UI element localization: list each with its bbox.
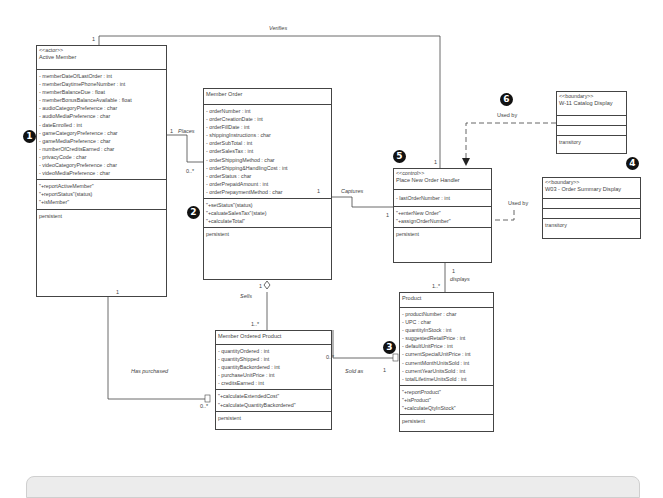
arrowhead-catalog [462, 158, 470, 166]
attribute-row: - orderPrepaidAmount : int [206, 180, 329, 188]
attribute-row: - orderPrepaymentMethod : char [206, 188, 329, 196]
method-row: "+reportStatus"(status) [39, 190, 164, 198]
attribute-row: - videoMediaPreference : char [39, 169, 164, 177]
method-row: "+calculateQuantityBackordered" [218, 401, 329, 409]
class-place-new-order-handler[interactable]: <<control>> Place New Order Handler - la… [393, 168, 492, 263]
callout-badge-5: 5 [393, 150, 406, 163]
multiplicity: 1..* [251, 321, 259, 327]
attribute-row: - productNumber : char [402, 310, 491, 318]
attribute-row: - quantityBackordered : int [218, 363, 329, 371]
multiplicity: 1 [170, 128, 173, 134]
attribute-row: - shippingInstructions : char [206, 131, 329, 139]
multiplicity: 1 [116, 289, 119, 295]
multiplicity: 0..* [186, 168, 194, 174]
attribute-row: - memberBalanceDue : float [39, 88, 164, 96]
attribute-row: - memberDaytimePhoneNumber : int [39, 80, 164, 88]
attribute-row: - orderCreationDate : int [206, 115, 329, 123]
multiplicity: 1 [386, 212, 389, 218]
callout-badge-4: 4 [626, 157, 639, 170]
attribute-row: - audioCategoryPreference : char [39, 104, 164, 112]
multiplicity: 1 [317, 188, 320, 194]
attribute-row: - UPC : char [402, 318, 491, 326]
attribute-row: - gameCategoryPreference : char [39, 129, 164, 137]
callout-badge-3: 3 [383, 341, 396, 354]
persistence-label: persistent [396, 230, 489, 238]
methods-section: "+calculateExtendedCost""+calculateQuant… [216, 390, 331, 411]
attribute-row: - orderNumber : int [206, 107, 329, 115]
multiplicity: 1 [452, 268, 455, 274]
attribute-row: - gameMediaPreference : char [39, 137, 164, 145]
attribute-row: - defaultUnitPrice : int [402, 342, 491, 350]
has-purchased-line [108, 297, 210, 399]
class-name: Product [402, 294, 491, 302]
attribute-row: - dateEnrolled : int [39, 121, 164, 129]
method-row: "+reportActiveMember" [39, 182, 164, 190]
method-row: "+isMember" [39, 198, 164, 206]
attribute-row: - orderShippingMethod : char [206, 156, 329, 164]
attributes-section: - lastOrderNumber : int [394, 190, 491, 207]
attribute-row: - totalLifetimeUnitsSold : int [402, 375, 491, 383]
multiplicity: 0..* [326, 354, 334, 360]
callout-badge-6: 6 [500, 93, 513, 106]
attribute-row: - currentYearUnitsSold : int [402, 367, 491, 375]
association-label-places: Places [178, 128, 195, 134]
navigability-box-1 [205, 395, 210, 402]
method-row: "+setStatus"(status) [206, 201, 329, 209]
captures-line [332, 197, 393, 207]
attribute-row: - quantityOrdered : int [218, 347, 329, 355]
association-label-used-by-catalog: Used by [497, 112, 517, 118]
persistence-section: persistent [394, 228, 491, 240]
attribute-row: - currentSpecialUnitPrice : int [402, 350, 491, 358]
association-label-captures: Captures [341, 188, 363, 194]
persistence-label: persistent [206, 230, 329, 238]
class-member-order[interactable]: Member Order - orderNumber : int- orderC… [203, 88, 332, 280]
attributes-section: - memberDateOfLastOrder : int- memberDay… [37, 70, 166, 180]
persistence-label: persistent [218, 414, 329, 422]
class-member-ordered-product[interactable]: Member Ordered Product - quantityOrdered… [215, 330, 332, 430]
attributes-section: - productNumber : char- UPC : char- quan… [400, 308, 493, 386]
attribute-row: - lastOrderNumber : int [396, 194, 489, 202]
attribute-row: - quantityShipped : int [218, 355, 329, 363]
class-name: Place New Order Handler [396, 176, 489, 184]
attributes-section [543, 199, 640, 209]
methods-section: "+reportActiveMember""+reportStatus"(sta… [37, 180, 166, 209]
methods-section [543, 209, 640, 219]
attribute-row: - creditsEarned : int [218, 379, 329, 387]
persistence-section: transitory [557, 136, 626, 148]
persistence-label: persistent [402, 417, 491, 425]
class-active-member[interactable]: <<actor>> Active Member - memberDateOfLa… [36, 45, 167, 297]
class-order-summary-display[interactable]: <<boundary>> W03 - Order Summary Display… [542, 177, 641, 239]
method-row: "+assignOrderNumber" [396, 217, 489, 225]
persistence-section: persistent [216, 412, 331, 424]
attribute-row: - privacyCode : char [39, 153, 164, 161]
attribute-row: - videoCategoryPreference : char [39, 161, 164, 169]
class-name: Active Member [39, 53, 164, 61]
multiplicity: 1 [434, 159, 437, 165]
class-catalog-display[interactable]: <<boundary>> W-11 Catalog Display transi… [556, 91, 627, 154]
method-row: "+isProduct" [402, 396, 491, 404]
method-row: "+calculateExtendedCost" [218, 392, 329, 400]
attribute-row: - memberDateOfLastOrder : int [39, 72, 164, 80]
attribute-row: - audioMediaPreference : char [39, 112, 164, 120]
attribute-row: - purchaseUnitPrice : int [218, 371, 329, 379]
association-label-sells: Sells [240, 293, 252, 299]
persistence-label: persistent [39, 212, 164, 220]
class-product[interactable]: Product - productNumber : char- UPC : ch… [399, 292, 494, 432]
association-label-verifies: Verifies [269, 25, 287, 31]
persistence-label: transitory [545, 221, 638, 229]
attribute-row: - orderSalesTax : int [206, 147, 329, 155]
attribute-row: - orderStatus : char [206, 172, 329, 180]
class-name: Member Order [206, 90, 329, 98]
attribute-row: - orderFillDate : int [206, 123, 329, 131]
class-name: Member Ordered Product [218, 332, 329, 340]
class-name: W03 - Order Summary Display [545, 185, 638, 193]
association-label-used-by-summary: Used by [508, 200, 528, 206]
callout-badge-1: 1 [23, 130, 36, 143]
aggregation-diamond [264, 281, 270, 289]
attribute-row: - numberOfCreditsEarned : char [39, 145, 164, 153]
used-by-line-catalog [466, 123, 556, 160]
methods-section: "+enterNew Order""+assignOrderNumber" [394, 207, 491, 228]
attributes-section [557, 116, 626, 126]
attributes-section: - quantityOrdered : int- quantityShipped… [216, 345, 331, 390]
association-label-has-purchased: Has purchased [131, 368, 168, 374]
